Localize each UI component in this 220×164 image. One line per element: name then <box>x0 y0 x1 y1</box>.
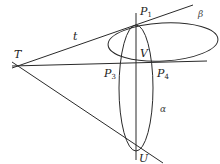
label-p4: P4 <box>156 67 169 81</box>
diagram-canvas: T t P1 β V P3 P4 α U <box>0 0 220 164</box>
tangent-line-to-u <box>12 62 163 163</box>
label-alpha: α <box>160 104 166 114</box>
tangent-line-t <box>12 5 193 68</box>
label-p1: P1 <box>139 5 152 19</box>
label-t-line: t <box>73 30 78 43</box>
label-u: U <box>139 152 149 164</box>
label-t-point: T <box>14 48 23 61</box>
label-v: V <box>140 47 149 60</box>
label-beta: β <box>197 9 203 19</box>
label-p3: P3 <box>103 67 116 81</box>
conic-beta <box>107 20 219 64</box>
line-through-p3-p4 <box>12 61 207 66</box>
